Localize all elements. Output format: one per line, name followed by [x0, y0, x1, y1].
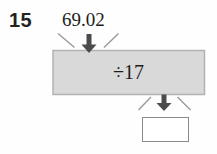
problem-number: 15 — [9, 9, 32, 31]
answer-input-box[interactable] — [142, 117, 189, 142]
arrow-down-icon — [157, 95, 172, 112]
top-funnel-line-right — [104, 34, 119, 48]
top-funnel-line-left — [58, 34, 75, 48]
input-value: 69.02 — [62, 10, 105, 30]
bottom-funnel-line-right — [178, 97, 191, 110]
bottom-funnel-line-left — [139, 97, 152, 110]
division-flow-diagram: 15 69.02 ÷17 — [0, 0, 217, 154]
operation-label: ÷17 — [52, 60, 205, 84]
